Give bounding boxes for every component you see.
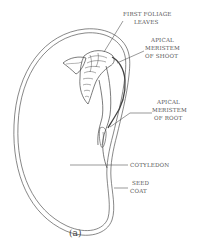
svg-text:COTYLEDON: COTYLEDON (130, 162, 169, 168)
svg-text:MERISTEM: MERISTEM (152, 107, 187, 113)
label-apical-meristem-shoot: APICAL MERISTEM OF SHOOT (145, 37, 180, 59)
svg-text:SEED: SEED (132, 180, 149, 186)
label-apical-meristem-root: APICAL MERISTEM OF ROOT (152, 99, 187, 121)
svg-text:COAT: COAT (130, 188, 147, 194)
leader-apical-meristem-shoot (117, 51, 144, 63)
seed-embryo-diagram: FIRST FOLIAGE LEAVES APICAL MERISTEM OF … (0, 0, 197, 249)
first-foliage-leaves (63, 51, 114, 104)
svg-text:FIRST FOLIAGE: FIRST FOLIAGE (123, 11, 172, 17)
svg-text:OF SHOOT: OF SHOOT (145, 53, 178, 59)
figure-caption: (a) (69, 228, 81, 238)
seed-coat-outline (14, 29, 130, 235)
embryo-axis (98, 57, 125, 168)
label-first-foliage-leaves: FIRST FOLIAGE LEAVES (123, 11, 172, 25)
svg-text:APICAL: APICAL (156, 99, 180, 105)
leader-first-foliage-leaves (104, 21, 123, 52)
svg-text:LEAVES: LEAVES (134, 19, 158, 25)
svg-text:OF ROOT: OF ROOT (154, 115, 183, 121)
label-cotyledon: COTYLEDON (130, 162, 169, 168)
svg-text:MERISTEM: MERISTEM (145, 45, 180, 51)
svg-text:APICAL: APICAL (150, 37, 174, 43)
label-seed-coat: SEED COAT (130, 180, 149, 194)
